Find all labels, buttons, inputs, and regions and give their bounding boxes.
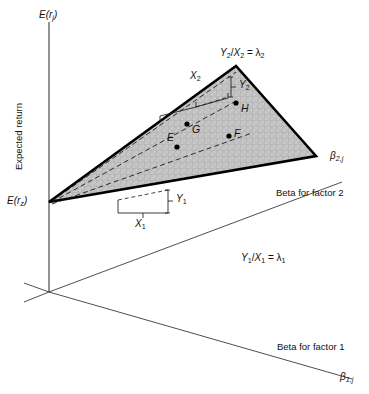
lambda2-symbol-sub: 2 <box>261 51 265 60</box>
bracket-y1-symbol: Y <box>176 193 183 204</box>
intercept-label: E(rz) <box>7 196 27 207</box>
factor1-axis-symbol: β1,j <box>340 372 353 383</box>
symbol-subscript-j: j <box>52 13 54 22</box>
point-marker-f <box>226 133 231 138</box>
lambda1-symbol: λ <box>277 252 282 263</box>
bracket-label-y2: Y2 <box>239 80 250 91</box>
symbol-e: E <box>39 9 46 20</box>
intercept-paren-close: ) <box>24 195 27 206</box>
lambda1-denominator-sub: 1 <box>261 256 265 265</box>
lambda2-denominator-sub: 2 <box>240 51 244 60</box>
bracket-x1-symbol: X <box>135 218 142 229</box>
lambda1-symbol-sub: 1 <box>282 256 286 265</box>
bracket-label-x1: X1 <box>135 219 146 230</box>
vertical-axis-title: Expected return <box>13 97 24 177</box>
bracket-label-x2: X2 <box>190 71 201 82</box>
lambda1-numerator-sub: 1 <box>248 256 252 265</box>
lambda2-numerator-sub: 2 <box>227 51 231 60</box>
bracket-x1-sub: 1 <box>142 222 146 231</box>
equation-lambda2: Y2/X2 = λ2 <box>220 48 265 59</box>
factor1-beta-symbol: β <box>340 371 346 382</box>
point-label-f: F <box>234 128 240 139</box>
factor2-axis-title: Beta for factor 2 <box>276 188 344 198</box>
bracket-y2-symbol: Y <box>239 79 246 90</box>
point-label-h: H <box>241 103 249 114</box>
lambda2-symbol: λ <box>256 47 261 58</box>
lambda1-numerator: Y <box>241 252 248 263</box>
figure-container: E(rj) Expected return E(rz) Y2/X2 = λ2 Y… <box>0 0 369 394</box>
factor1-axis-title: Beta for factor 1 <box>277 342 345 352</box>
lambda1-equals: = <box>268 252 274 263</box>
bracket-x2-sub: 2 <box>197 74 201 83</box>
symbol-paren-close: ) <box>54 9 57 20</box>
point-marker-e <box>174 144 179 149</box>
bracket-x2-symbol: X <box>190 70 197 81</box>
equation-lambda1: Y1/X1 = λ1 <box>241 253 286 264</box>
intercept-subscript-z: z <box>20 199 24 208</box>
point-marker-h <box>233 100 238 105</box>
vertical-axis-symbol: E(rj) <box>39 10 57 21</box>
point-marker-g <box>184 121 189 126</box>
point-label-g: G <box>192 124 200 135</box>
bracket-label-y1: Y1 <box>176 194 187 205</box>
factor2-beta-sub: 2,j <box>336 154 344 163</box>
factor2-axis-symbol: β2,j <box>330 151 343 162</box>
bracket-y1 <box>165 190 173 213</box>
lambda2-equals: = <box>247 47 253 58</box>
bracket-x1-dashed-guide <box>118 190 168 200</box>
lambda2-numerator: Y <box>220 47 227 58</box>
factor2-beta-symbol: β <box>330 150 336 161</box>
bracket-y1-sub: 1 <box>183 197 187 206</box>
bracket-x1 <box>118 200 168 218</box>
bracket-y2-sub: 2 <box>246 83 250 92</box>
factor1-beta-sub: 1,j <box>346 375 354 384</box>
point-label-e: E <box>167 132 174 143</box>
intercept-symbol-e: E <box>7 195 14 206</box>
